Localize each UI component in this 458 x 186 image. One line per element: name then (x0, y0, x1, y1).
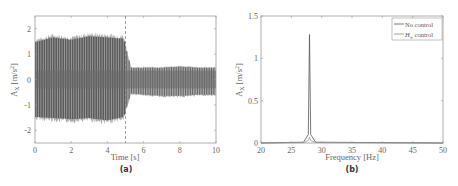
svg-text:0: 0 (254, 139, 258, 148)
svg-text:4: 4 (105, 146, 109, 155)
svg-text:-1: -1 (24, 101, 31, 110)
spectrum-plot: 202530354045501.510.50 Frequency [Hz] AX… (229, 0, 458, 186)
x-axis-label: Time [s] (111, 152, 140, 162)
svg-text:2: 2 (27, 25, 31, 34)
panel-caption-a: (a) (106, 165, 146, 174)
svg-text:1: 1 (254, 54, 258, 63)
panel-caption-b: (b) (332, 165, 372, 174)
svg-text:20: 20 (257, 146, 265, 155)
svg-text:10: 10 (212, 146, 220, 155)
svg-text:1: 1 (27, 50, 31, 59)
svg-text:50: 50 (439, 146, 447, 155)
x-axis-label: Frequency [Hz] (325, 152, 379, 162)
y-axis-label: AX [m/s2] (9, 63, 20, 97)
y-axis-label: AX [m/s2] (234, 63, 245, 97)
svg-text:2: 2 (69, 146, 73, 155)
svg-text:6: 6 (142, 146, 146, 155)
svg-text:-2: -2 (24, 126, 31, 135)
svg-text:45: 45 (409, 146, 417, 155)
panel-a-time-history: 0246810210-1-2 Time [s] AX [m/s2] (a) (0, 0, 229, 186)
svg-text:8: 8 (178, 146, 182, 155)
svg-text:1.5: 1.5 (248, 12, 258, 21)
svg-text:0: 0 (27, 76, 31, 85)
svg-text:25: 25 (287, 146, 295, 155)
svg-text:40: 40 (378, 146, 386, 155)
panel-b-spectrum: 202530354045501.510.50 Frequency [Hz] AX… (229, 0, 458, 186)
svg-text:0: 0 (33, 146, 37, 155)
legend: No control H∞ control (392, 18, 442, 40)
time-history-plot: 0246810210-1-2 Time [s] AX [m/s2] (0, 0, 229, 186)
legend-label-no-control: No control (405, 21, 433, 28)
svg-text:0.5: 0.5 (248, 97, 258, 106)
